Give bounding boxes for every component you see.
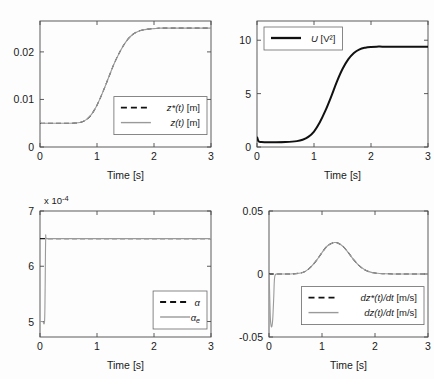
x-tick-label: 1: [94, 150, 100, 162]
x-tick-label: 3: [208, 150, 214, 162]
plot-position: 012300.010.02Time [s]z*(t) [m]z(t) [m]: [0, 0, 217, 190]
legend-label: U [V²]: [311, 33, 335, 44]
plot-control-effort: 01230510Time [s]U [V²]: [217, 0, 434, 190]
plot-velocity: 0123-0.0500.05Time [s]dz*(t)/dt [m/s]dz(…: [217, 189, 434, 379]
x-tick-label: 2: [368, 150, 374, 162]
y-tick-label: 0.01: [14, 93, 35, 105]
legend: dz*(t)/dt [m/s]dz(t)/dt [m/s]: [302, 287, 425, 325]
y-tick-label: 7: [28, 205, 34, 217]
figure-canvas: 012300.010.02Time [s]z*(t) [m]z(t) [m] 0…: [0, 0, 434, 379]
y-tick-label: 0: [257, 268, 263, 280]
y-tick-label: 5: [245, 88, 251, 100]
panel-parameter-estimate: 0123567x 10-4Time [s]ααe: [0, 189, 217, 379]
legend: U [V²]: [264, 27, 342, 50]
x-tick-label: 1: [311, 150, 317, 162]
x-axis-title: Time [s]: [324, 169, 361, 181]
x-tick-label: 3: [425, 340, 431, 352]
x-tick-label: 2: [151, 340, 157, 352]
x-tick-label: 2: [372, 340, 378, 352]
panel-position: 012300.010.02Time [s]z*(t) [m]z(t) [m]: [0, 0, 217, 190]
plot-parameter-estimate: 0123567x 10-4Time [s]ααe: [0, 189, 217, 379]
legend: ααe: [153, 291, 207, 329]
x-tick-label: 0: [254, 150, 260, 162]
panel-velocity: 0123-0.0500.05Time [s]dz*(t)/dt [m/s]dz(…: [217, 189, 434, 379]
y-tick-label: 0.02: [14, 46, 35, 58]
x-tick-label: 0: [266, 340, 272, 352]
x-tick-label: 0: [37, 340, 43, 352]
x-axis-title: Time [s]: [107, 169, 144, 181]
y-tick-label: 0: [245, 141, 251, 153]
panel-control-effort: 01230510Time [s]U [V²]: [217, 0, 434, 190]
x-tick-label: 1: [319, 340, 325, 352]
y-tick-label: -0.05: [239, 331, 263, 343]
y-tick-label: 10: [239, 34, 251, 46]
y-tick-label: 6: [28, 260, 34, 272]
series-curve: [257, 47, 428, 143]
legend-label: dz(t)/dt [m/s]: [364, 307, 417, 318]
axis-multiplier-label: x 10-4: [44, 194, 69, 207]
legend: z*(t) [m]z(t) [m]: [114, 97, 207, 135]
x-tick-label: 2: [151, 150, 157, 162]
y-tick-label: 0: [28, 141, 34, 153]
legend-label: α: [195, 297, 201, 308]
x-axis-title: Time [s]: [107, 359, 144, 371]
legend-label: dz*(t)/dt [m/s]: [361, 292, 418, 303]
x-axis-title: Time [s]: [330, 359, 367, 371]
x-tick-label: 3: [425, 150, 431, 162]
x-tick-label: 1: [94, 340, 100, 352]
y-tick-label: 5: [28, 316, 34, 328]
y-tick-label: 0.05: [243, 205, 264, 217]
x-tick-label: 0: [37, 150, 43, 162]
series-curve: [269, 242, 428, 274]
legend-label: z(t) [m]: [169, 117, 200, 128]
legend-label: z*(t) [m]: [166, 102, 200, 113]
x-tick-label: 3: [208, 340, 214, 352]
